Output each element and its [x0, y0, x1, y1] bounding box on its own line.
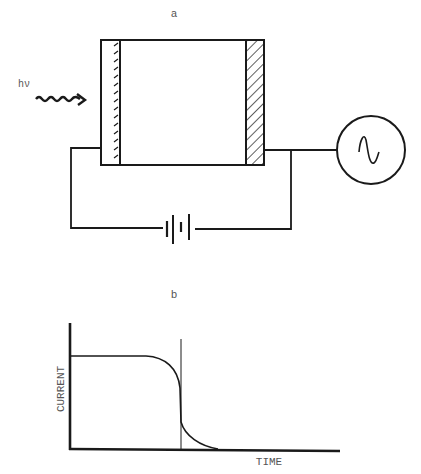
- circuit-wires: [71, 148, 337, 229]
- back-electrode: [246, 40, 264, 165]
- current-time-chart: CURRENT TIME: [55, 323, 340, 468]
- panel-b-label: b: [171, 289, 178, 301]
- battery-icon: [167, 214, 189, 244]
- panel-a-label: a: [171, 8, 178, 20]
- figure: a hν b CURRENT TIME: [0, 0, 421, 474]
- photon-label: hν: [18, 79, 30, 90]
- photon-wave-arrow-icon: [36, 94, 85, 105]
- x-axis: [69, 449, 340, 451]
- current-curve: [71, 356, 218, 449]
- front-electrode-hatch: [114, 43, 118, 158]
- y-axis-label: CURRENT: [55, 366, 67, 413]
- ac-source-icon: [337, 116, 405, 184]
- cell: [101, 40, 264, 165]
- x-axis-label: TIME: [256, 456, 283, 468]
